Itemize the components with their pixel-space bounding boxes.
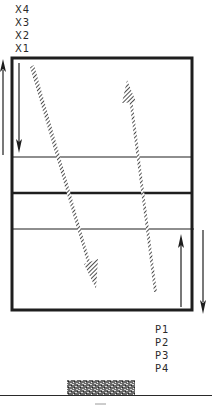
label-p2: P2 (155, 336, 169, 349)
arrow-up-icon (178, 234, 184, 307)
label-p1: P1 (155, 323, 169, 336)
base-block (67, 380, 135, 395)
hatched-arrow-down-icon (30, 65, 98, 289)
diagram-canvas (0, 0, 212, 406)
arrow-down-icon (200, 230, 206, 314)
hatched-arrow-up-icon (122, 80, 157, 292)
arrow-up-icon (0, 59, 6, 155)
label-p4: P4 (155, 362, 169, 375)
shaft-motion-diagram: X4 X3 X2 X1 (0, 0, 212, 406)
arrow-down-icon (16, 63, 22, 153)
label-p3: P3 (155, 349, 169, 362)
p-level-labels: P1 P2 P3 P4 (155, 323, 169, 375)
